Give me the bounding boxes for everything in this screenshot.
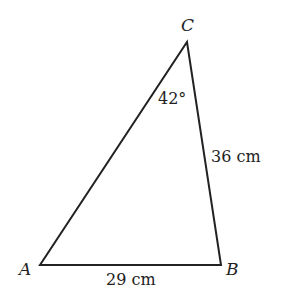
side-bc-label: 36 cm [211,147,261,166]
vertex-label-c: C [181,15,194,35]
vertex-label-a: A [17,259,31,279]
vertex-label-b: B [225,259,239,279]
triangle-abc [40,42,221,265]
triangle-diagram: C A B 42° 36 cm 29 cm [0,0,283,293]
angle-c-label: 42° [158,89,186,108]
side-ab-label: 29 cm [106,270,156,289]
